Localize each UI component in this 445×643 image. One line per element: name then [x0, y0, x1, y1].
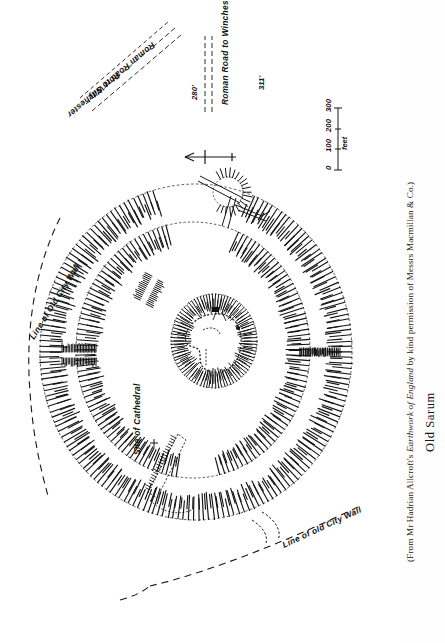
credit-prefix: (From Mr Hadrian Allcroft's — [405, 452, 415, 562]
caption-column: Old Sarum (From Mr Hadrian Allcroft's Ea… — [389, 0, 445, 643]
svg-text:Roman Road to Winchester: Roman Road to Winchester — [220, 0, 230, 105]
scale-tick-0: 0 — [324, 165, 333, 170]
site-plan-svg: Roman Road to Silchester Port Way 280' R… — [0, 0, 400, 643]
label-elevation-280: 280' — [190, 84, 199, 101]
label-roman-road-winchester: Roman Road to Winchester — [220, 0, 230, 105]
svg-text:280': 280' — [190, 84, 199, 101]
scale-tick-200: 200 — [324, 118, 333, 133]
label-elevation-311: 311' — [257, 75, 266, 90]
keep-well-marker — [236, 326, 240, 330]
scale-tick-100: 100 — [324, 138, 333, 152]
keep-tower-marker — [212, 307, 219, 312]
figure-page: Roman Road to Silchester Port Way 280' R… — [0, 0, 445, 643]
west-gate-causeway — [300, 348, 340, 357]
scale-unit: feet — [340, 136, 349, 150]
svg-text:Site of Cathedral: Site of Cathedral — [132, 383, 142, 455]
svg-text:311': 311' — [257, 75, 266, 90]
figure-credit: (From Mr Hadrian Allcroft's Earthwork of… — [405, 182, 415, 562]
figure-title: Old Sarum — [423, 392, 438, 452]
scale-tick-300: 300 — [324, 98, 333, 112]
credit-italic-title: Earthwork of England — [405, 368, 415, 452]
credit-suffix: by kind permission of Messrs Macmillan &… — [405, 182, 415, 368]
map-canvas: Roman Road to Silchester Port Way 280' R… — [0, 0, 400, 643]
